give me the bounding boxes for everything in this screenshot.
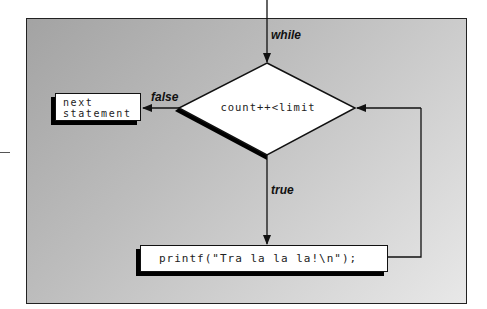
false-label: false — [151, 90, 178, 104]
condition-text: count++<limit — [198, 101, 338, 113]
while-label: while — [271, 28, 301, 42]
loop-back-line — [388, 108, 421, 257]
true-label: true — [271, 183, 294, 197]
loop-body-box: printf("Tra la la la!\n"); — [140, 245, 388, 272]
next-statement-box: next statement — [55, 93, 141, 121]
flowchart-canvas: count++<limit next statement printf("Tra… — [0, 0, 487, 309]
loop-body-text: printf("Tra la la la!\n"); — [159, 252, 357, 265]
next-statement-line-1: next — [63, 97, 140, 108]
next-statement-line-2: statement — [63, 108, 140, 119]
